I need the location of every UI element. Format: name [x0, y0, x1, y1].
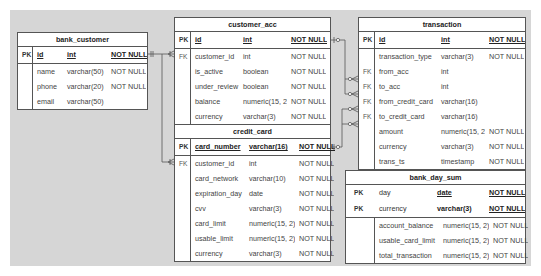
column-type: varchar(3)	[437, 139, 485, 154]
column-type: int	[437, 32, 485, 48]
column-name: email	[33, 94, 63, 109]
columns-section: FK FK FK FK transaction_type varchar(3) …	[359, 49, 525, 169]
columns-section: FK customer_id int NOT NULL is_active bo…	[175, 49, 330, 124]
column-name: balance	[191, 94, 239, 109]
table-customer-acc[interactable]: customer_acc PK id int NOT NULL FK custo…	[174, 17, 331, 125]
column-name: currency	[191, 109, 239, 124]
column-type: varchar(16)	[245, 139, 295, 155]
column-null: NOT NULL	[287, 79, 326, 94]
column-null: NOT NULL	[295, 171, 334, 186]
column-type: date	[245, 186, 295, 201]
column-row[interactable]: is_active boolean NOT NULL	[191, 64, 330, 79]
pk-marker: PK	[346, 201, 363, 217]
column-row[interactable]: from_acc int	[375, 64, 525, 79]
column-row[interactable]: from_credit_card varchar(16)	[375, 94, 525, 109]
column-row[interactable]: day date NOT NULL	[375, 185, 525, 201]
pk-section: PK id int NOT NULL	[175, 32, 330, 49]
table-transaction[interactable]: transaction PK id int NOT NULL FK FK FK …	[358, 17, 526, 170]
column-name: usable_limit	[191, 231, 245, 246]
column-row[interactable]: phone varchar(20) NOT NULL	[33, 79, 147, 94]
table-bank-customer[interactable]: bank_customer PK id int NOT NULL name va…	[17, 32, 148, 110]
column-name: phone	[33, 79, 63, 94]
column-type: numeric(15, 2)	[439, 218, 489, 233]
column-row[interactable]: balance numeric(15, 2) NOT NULL	[191, 94, 330, 109]
column-null: NOT NULL	[295, 231, 334, 246]
column-type: int	[437, 79, 485, 94]
pk-section: PK card_number varchar(16) NOT NULL	[175, 139, 330, 156]
column-type: numeric(15, 2)	[245, 231, 295, 246]
column-null: NOT NULL	[295, 216, 334, 231]
column-null: NOT NULL	[287, 64, 326, 79]
column-null: NOT NULL	[107, 79, 146, 94]
columns-section: name varchar(50) NOT NULL phone varchar(…	[18, 64, 147, 109]
fk-marker: FK	[359, 64, 371, 79]
key-marker	[359, 49, 363, 64]
column-type: timestamp	[437, 154, 485, 169]
column-row[interactable]: currency varchar(3) NOT NULL	[191, 246, 334, 261]
table-bank-day-sum[interactable]: bank_day_sum PK PK day date NOT NULL cur…	[345, 170, 526, 264]
table-credit-card[interactable]: credit_card PK card_number varchar(16) N…	[174, 124, 331, 262]
column-row[interactable]: usable_card_limit numeric(15, 2) NOT NUL…	[375, 233, 528, 248]
column-name: to_credit_card	[375, 109, 437, 124]
column-row[interactable]: id int NOT NULL	[191, 32, 330, 48]
column-type: varchar(3)	[433, 201, 485, 217]
column-row[interactable]: to_credit_card varchar(16)	[375, 109, 525, 124]
column-name: transaction_type	[375, 49, 437, 64]
column-type: varchar(3)	[239, 109, 287, 124]
column-name: from_credit_card	[375, 94, 437, 109]
column-name: total_transaction	[375, 248, 439, 263]
column-row[interactable]: id int NOT NULL	[375, 32, 525, 48]
column-type: int	[245, 156, 295, 171]
column-null: NOT NULL	[489, 233, 528, 248]
column-null: NOT NULL	[485, 32, 525, 48]
column-row[interactable]: name varchar(50) NOT NULL	[33, 64, 147, 79]
column-row[interactable]: card_network varchar(10) NOT NULL	[191, 171, 334, 186]
column-name: id	[375, 32, 437, 48]
column-null: NOT NULL	[287, 49, 326, 64]
column-row[interactable]: under_review boolean NOT NULL	[191, 79, 330, 94]
column-row[interactable]: card_number varchar(16) NOT NULL	[191, 139, 335, 155]
column-row[interactable]: expiration_day date NOT NULL	[191, 186, 334, 201]
column-null: NOT NULL	[485, 49, 524, 64]
column-null	[485, 94, 489, 109]
column-type: varchar(16)	[437, 109, 485, 124]
column-null	[485, 79, 489, 94]
column-name: card_limit	[191, 216, 245, 231]
column-type: int	[239, 32, 287, 48]
column-row[interactable]: currency varchar(3) NOT NULL	[191, 109, 330, 124]
columns-section: account_balance numeric(15, 2) NOT NULL …	[346, 218, 525, 263]
column-row[interactable]: account_balance numeric(15, 2) NOT NULL	[375, 218, 528, 233]
column-null: NOT NULL	[485, 139, 524, 154]
column-name: currency	[375, 139, 437, 154]
column-row[interactable]: customer_id int NOT NULL	[191, 156, 334, 171]
column-name: customer_id	[191, 156, 245, 171]
column-row[interactable]: to_acc int	[375, 79, 525, 94]
column-null: NOT NULL	[295, 201, 334, 216]
fk-marker: FK	[359, 109, 371, 124]
column-null: NOT NULL	[489, 218, 528, 233]
column-name: amount	[375, 124, 437, 139]
pk-marker: PK	[175, 32, 188, 48]
fk-marker: FK	[359, 94, 371, 109]
column-name: id	[33, 47, 63, 63]
column-row[interactable]: usable_limit numeric(15, 2) NOT NULL	[191, 231, 334, 246]
fk-marker: FK	[359, 79, 371, 94]
column-null: NOT NULL	[287, 109, 326, 124]
column-null	[485, 64, 489, 79]
column-row[interactable]: customer_id int NOT NULL	[191, 49, 330, 64]
column-null: NOT NULL	[295, 156, 334, 171]
column-null: NOT NULL	[287, 32, 327, 48]
column-row[interactable]: amount numeric(15, 2) NOT NULL	[375, 124, 525, 139]
column-type: varchar(20)	[63, 79, 107, 94]
column-row[interactable]: transaction_type varchar(3) NOT NULL	[375, 49, 525, 64]
column-row[interactable]: card_limit numeric(15, 2) NOT NULL	[191, 216, 334, 231]
column-row[interactable]: cvv varchar(3) NOT NULL	[191, 201, 334, 216]
column-row[interactable]: currency varchar(3) NOT NULL	[375, 139, 525, 154]
column-row[interactable]: trans_ts timestamp NOT NULL	[375, 154, 525, 169]
column-row[interactable]: email varchar(50)	[33, 94, 147, 109]
column-row[interactable]: currency varchar(3) NOT NULL	[375, 201, 525, 217]
table-title: bank_customer	[18, 33, 147, 47]
column-type: boolean	[239, 64, 287, 79]
column-row[interactable]: id int NOT NULL	[33, 47, 147, 63]
column-row[interactable]: total_transaction numeric(15, 2) NOT NUL…	[375, 248, 528, 263]
